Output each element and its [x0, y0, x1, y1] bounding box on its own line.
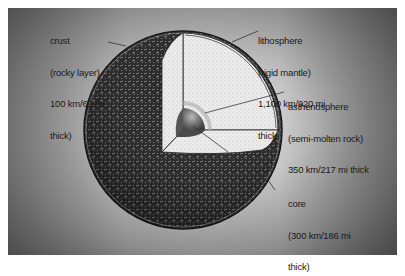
lithosphere-label-desc: (rigid mantle)	[258, 68, 325, 79]
lithosphere-leader	[232, 31, 258, 42]
core-label-thick: thick)	[288, 262, 351, 273]
core-leader	[268, 180, 275, 190]
crust-leader	[108, 42, 126, 46]
asthenosphere-label-title: asthenosphere	[288, 102, 369, 113]
lithosphere-label-title: lithosphere	[258, 36, 325, 47]
crust-label-thick: thick)	[50, 131, 105, 142]
asthenosphere-label-desc: (semi-molten rock)	[288, 134, 369, 145]
crust-label: crust (rocky layer) 100 km/62 mi thick)	[50, 15, 105, 152]
crust-label-size: 100 km/62 mi	[50, 99, 105, 110]
core-label-title: core	[288, 199, 351, 210]
asthenosphere-label: asthenosphere (semi-molten rock) 350 km/…	[288, 81, 369, 186]
crust-label-title: crust	[50, 36, 105, 47]
core-label: core (300 km/186 mi thick)	[288, 178, 351, 276]
crust-label-desc: (rocky layer)	[50, 68, 105, 79]
asthenosphere-label-size: 350 km/217 mi thick	[288, 165, 369, 176]
core-label-size: (300 km/186 mi	[288, 231, 351, 242]
